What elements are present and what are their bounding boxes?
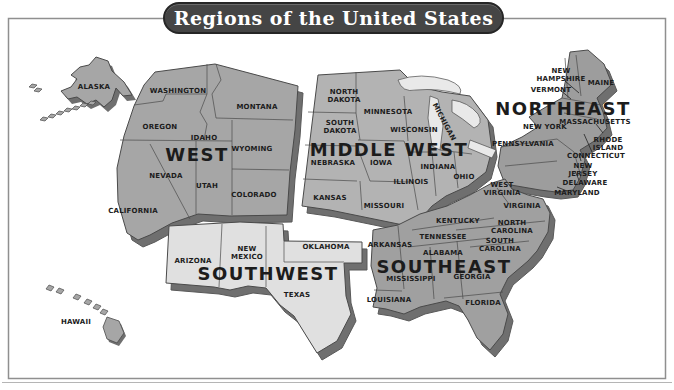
state-label-alaska: ALASKA [78, 83, 111, 91]
aleutian-island [34, 88, 42, 92]
state-label-indiana: INDIANA [421, 163, 456, 171]
state-label-kansas: KANSAS [313, 194, 346, 202]
state-label-iowa: IOWA [370, 159, 393, 167]
state-label-florida: FLORIDA [465, 299, 501, 307]
state-label-ohio: OHIO [453, 173, 474, 181]
state-label-colorado: COLORADO [231, 191, 276, 199]
hawaii-island [93, 304, 101, 310]
state-label-pennsylvania: PENNSYLVANIA [492, 140, 554, 148]
aleutian-island [72, 106, 80, 110]
region-label-southwest: SOUTHWEST [197, 263, 338, 284]
state-label-montana: MONTANA [236, 103, 277, 111]
state-label-wyoming: WYOMING [231, 145, 272, 153]
state-label-texas: TEXAS [284, 291, 310, 299]
state-label-louisiana: LOUISIANA [367, 296, 412, 304]
region-label-southeast: SOUTHEAST [376, 256, 511, 277]
regions-map: ALASKAWASHINGTONMONTANAOREGONIDAHOWYOMIN… [0, 0, 674, 390]
state-label-north-dakota: NORTHDAKOTA [327, 88, 361, 104]
state-label-kentucky: KENTUCKY [436, 217, 480, 225]
state-label-new-york: NEW YORK [523, 123, 567, 131]
aleutian-island [64, 108, 72, 112]
state-label-oregon: OREGON [143, 123, 178, 131]
region-label-west: WEST [165, 144, 228, 165]
map-page: ALASKAWASHINGTONMONTANAOREGONIDAHOWYOMIN… [0, 0, 674, 390]
hawaii-island [46, 285, 54, 291]
aleutian-island [29, 84, 37, 88]
state-label-minnesota: MINNESOTA [364, 108, 413, 116]
state-label-rhode-island: RHODEISLAND [593, 136, 623, 152]
state-label-arkansas: ARKANSAS [368, 241, 413, 249]
state-label-nevada: NEVADA [149, 172, 183, 180]
state-label-utah: UTAH [196, 182, 218, 190]
aleutian-island [56, 111, 64, 115]
state-label-delaware: DELAWARE [563, 179, 608, 187]
region-label-northeast: NORTHEAST [495, 98, 631, 119]
state-label-california: CALIFORNIA [108, 207, 158, 215]
aleutian-island [80, 103, 88, 107]
region-label-middle-west: MIDDLE WEST [310, 139, 468, 160]
state-label-south-dakota: SOUTHDAKOTA [323, 119, 357, 135]
state-label-idaho: IDAHO [191, 134, 218, 142]
hawaii-island [56, 288, 64, 294]
state-label-maryland: MARYLAND [554, 189, 600, 197]
state-label-massachusetts: MASSACHUSETTS [559, 118, 630, 126]
hawaii-island [73, 294, 81, 300]
aleutian-island [48, 114, 56, 118]
state-label-missouri: MISSOURI [364, 202, 405, 210]
state-label-connecticut: CONNECTICUT [567, 152, 625, 160]
state-label-tennessee: TENNESSEE [419, 233, 466, 241]
state-label-washington: WASHINGTON [150, 87, 206, 95]
hawaii-island [100, 309, 108, 315]
state-label-virginia: VIRGINIA [503, 202, 541, 210]
aleutian-island [40, 117, 48, 121]
state-label-maine: MAINE [588, 79, 615, 87]
map-title-banner: Regions of the United States [163, 2, 504, 34]
state-label-vermont: VERMONT [531, 86, 572, 94]
map-title: Regions of the United States [174, 7, 494, 29]
state-label-hawaii: HAWAII [61, 318, 91, 326]
state-label-illinois: ILLINOIS [393, 178, 428, 186]
state-label-nebraska: NEBRASKA [311, 159, 356, 167]
hawaii-island [84, 299, 92, 305]
state-label-oklahoma: OKLAHOMA [302, 243, 349, 251]
state-label-wisconsin: WISCONSIN [390, 126, 438, 134]
